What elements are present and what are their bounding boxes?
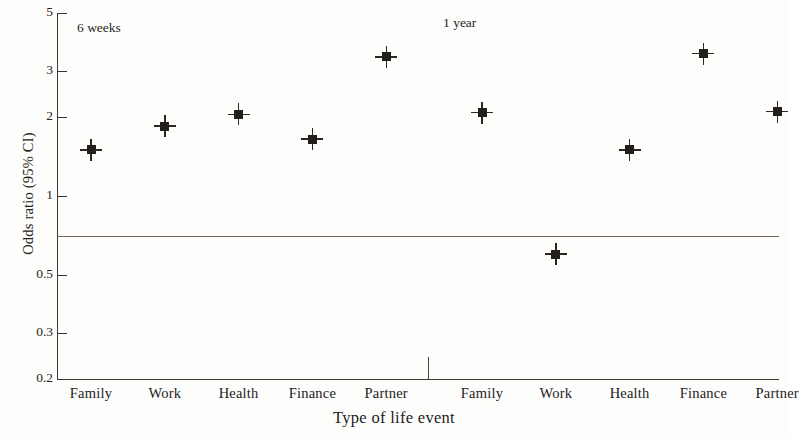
point-square — [625, 145, 634, 154]
panel-separator-tick — [428, 357, 429, 380]
point-square — [699, 49, 708, 58]
y-tick-mark — [57, 196, 67, 197]
y-tick-mark — [57, 13, 67, 14]
point-square — [382, 52, 391, 61]
y-tick-label: 0.3 — [7, 324, 53, 340]
x-axis-title: Type of life event — [0, 408, 788, 428]
y-tick-mark — [57, 71, 67, 72]
y-tick-mark — [57, 117, 67, 118]
y-tick-label: 2 — [7, 108, 53, 124]
y-tick-mark — [57, 379, 67, 380]
y-tick-label: 3 — [7, 62, 53, 78]
panel-label-6-weeks: 6 weeks — [77, 20, 121, 36]
point-square — [551, 250, 560, 259]
point-square — [478, 108, 487, 117]
x-tick-label: Partner — [331, 385, 441, 402]
x-axis-line — [57, 379, 779, 380]
x-tick-label: Partner — [722, 385, 804, 402]
point-square — [308, 135, 317, 144]
reference-line-or-1 — [57, 236, 779, 237]
y-tick-mark — [57, 333, 67, 334]
point-square — [234, 110, 243, 119]
point-square — [87, 145, 96, 154]
point-square — [160, 122, 169, 131]
y-tick-label: 0.5 — [7, 266, 53, 282]
point-square — [773, 107, 782, 116]
y-tick-label: 1 — [7, 187, 53, 203]
panel-label-1-year: 1 year — [443, 15, 476, 31]
y-tick-label: 0.2 — [7, 370, 53, 386]
y-tick-mark — [57, 275, 67, 276]
y-tick-label: 5 — [7, 4, 53, 20]
